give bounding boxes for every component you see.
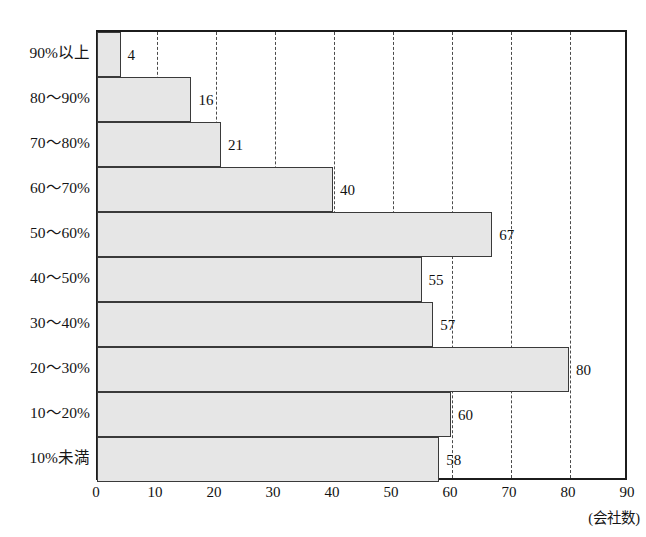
category-label: 70～80% bbox=[8, 120, 96, 165]
bar-value-label: 60 bbox=[452, 406, 473, 423]
bar-band: 55 bbox=[98, 257, 629, 302]
bar-band: 40 bbox=[98, 167, 629, 212]
x-tick-40: 40 bbox=[325, 484, 340, 501]
bar-band: 21 bbox=[98, 122, 629, 167]
bar bbox=[97, 257, 422, 302]
category-label: 80～90% bbox=[8, 75, 96, 120]
bar-value-label: 40 bbox=[334, 181, 355, 198]
category-label: 90%以上 bbox=[8, 30, 96, 75]
bar-band: 80 bbox=[98, 347, 629, 392]
x-tick-30: 30 bbox=[266, 484, 281, 501]
bar-band: 60 bbox=[98, 392, 629, 437]
bar-value-label: 80 bbox=[570, 361, 591, 378]
bar-value-label: 4 bbox=[122, 46, 136, 63]
bar bbox=[97, 212, 492, 257]
bar bbox=[97, 167, 333, 212]
bar-band: 58 bbox=[98, 437, 629, 482]
bar-value-label: 55 bbox=[423, 271, 444, 288]
bar-value-label: 21 bbox=[222, 136, 243, 153]
bar bbox=[97, 347, 569, 392]
x-tick-20: 20 bbox=[207, 484, 222, 501]
bar bbox=[97, 437, 439, 482]
x-tick-80: 80 bbox=[561, 484, 576, 501]
bar-band: 4 bbox=[98, 32, 629, 77]
bar bbox=[97, 392, 451, 437]
bar-band: 67 bbox=[98, 212, 629, 257]
category-label: 30～40% bbox=[8, 300, 96, 345]
x-tick-50: 50 bbox=[384, 484, 399, 501]
bar-band: 57 bbox=[98, 302, 629, 347]
chart-plot-area: 4162140675557806058 bbox=[96, 30, 627, 480]
x-tick-10: 10 bbox=[148, 484, 163, 501]
category-label: 50～60% bbox=[8, 210, 96, 255]
x-tick-60: 60 bbox=[443, 484, 458, 501]
category-label: 10%未満 bbox=[8, 435, 96, 480]
y-axis-labels: 90%以上80～90%70～80%60～70%50～60%40～50%30～40… bbox=[0, 30, 96, 480]
x-tick-70: 70 bbox=[502, 484, 517, 501]
category-label: 60～70% bbox=[8, 165, 96, 210]
x-tick-0: 0 bbox=[92, 484, 100, 501]
bar-value-label: 58 bbox=[440, 451, 461, 468]
bar-value-label: 16 bbox=[192, 91, 213, 108]
category-label: 20～30% bbox=[8, 345, 96, 390]
bar bbox=[97, 77, 191, 122]
x-tick-90: 90 bbox=[620, 484, 635, 501]
bar bbox=[97, 122, 221, 167]
category-label: 10～20% bbox=[8, 390, 96, 435]
bar bbox=[97, 32, 121, 77]
bar bbox=[97, 302, 433, 347]
bar-value-label: 57 bbox=[434, 316, 455, 333]
bar-value-label: 67 bbox=[493, 226, 514, 243]
bar-band: 16 bbox=[98, 77, 629, 122]
x-axis-unit-label: (会社数) bbox=[0, 506, 640, 527]
category-label: 40～50% bbox=[8, 255, 96, 300]
